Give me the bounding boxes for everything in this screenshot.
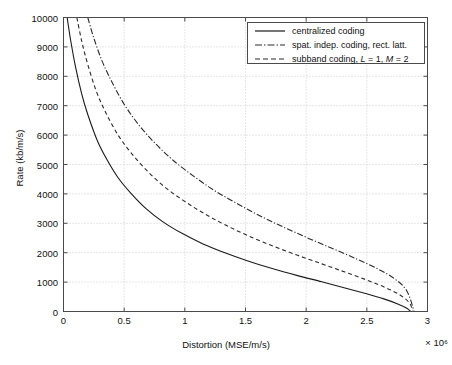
y-tick-label: 8000 — [37, 71, 58, 82]
y-tick-label: 6000 — [37, 130, 58, 141]
x-axis-title: Distortion (MSE/m/s) — [0, 339, 452, 350]
x-tick-label: 1 — [182, 315, 187, 326]
legend-item-centralized: centralized coding — [248, 24, 424, 37]
x-tick-label: 1.5 — [239, 315, 252, 326]
y-tick-label: 0 — [53, 306, 58, 317]
chart-figure: 00.511.522.53 01000200030004000500060007… — [0, 0, 452, 365]
legend-item-subband: subband coding, L = 1, M = 2 — [248, 52, 424, 65]
legend-label-subband: subband coding, L = 1, M = 2 — [292, 54, 409, 64]
x-tick-label: 2 — [304, 315, 309, 326]
x-tick-label: 0 — [61, 315, 66, 326]
x-tick-label: 3 — [425, 315, 430, 326]
y-tick-label: 1000 — [37, 277, 58, 288]
x-axis-exponent: × 10⁶ — [425, 337, 448, 348]
legend: centralized coding spat. indep. coding, … — [247, 22, 425, 64]
legend-label-centralized: centralized coding — [292, 26, 365, 36]
y-tick-label: 5000 — [37, 159, 58, 170]
legend-label-subband-post: = 2 — [393, 54, 408, 64]
legend-line-dashdot-icon — [254, 39, 286, 51]
legend-label-spatial-independent: spat. indep. coding, rect. latt. — [292, 40, 407, 50]
legend-label-subband-mid: = 1, — [366, 54, 386, 64]
y-axis-title-wrapper: Rate (kb/m/s) — [9, 78, 27, 238]
y-tick-label: 3000 — [37, 218, 58, 229]
legend-item-spatial-independent: spat. indep. coding, rect. latt. — [248, 38, 424, 51]
y-tick-label: 9000 — [37, 41, 58, 52]
y-tick-label: 2000 — [37, 247, 58, 258]
y-tick-label: 7000 — [37, 100, 58, 111]
legend-label-subband-pre: subband coding, — [292, 54, 361, 64]
legend-line-solid-icon — [254, 25, 286, 37]
x-tick-label: 2.5 — [360, 315, 373, 326]
y-tick-label: 10000 — [32, 12, 58, 23]
y-tick-label: 4000 — [37, 188, 58, 199]
y-axis-title: Rate (kb/m/s) — [14, 130, 25, 187]
legend-line-dashed-icon — [254, 53, 286, 65]
x-tick-label: 0.5 — [118, 315, 131, 326]
